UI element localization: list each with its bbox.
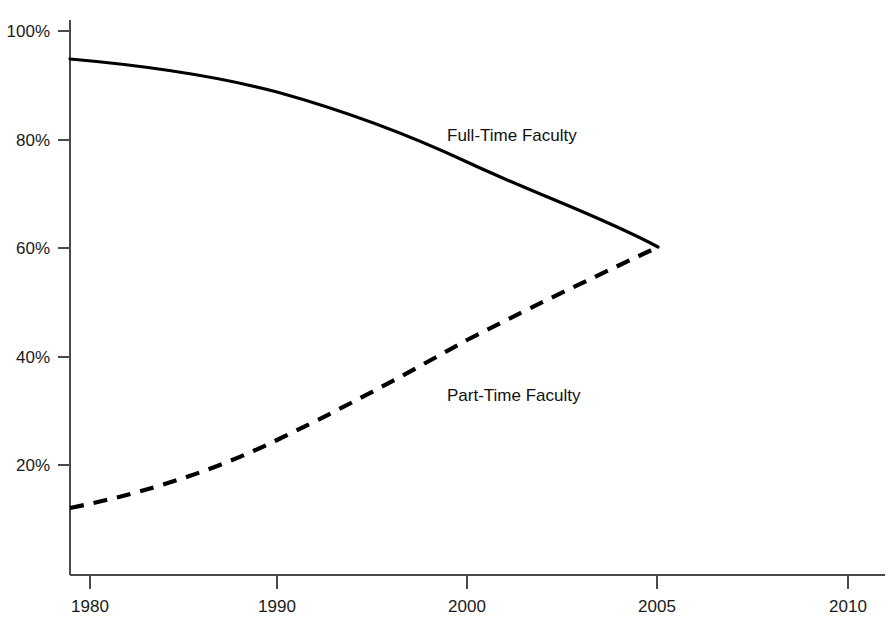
x-tick-label-2005: 2005: [638, 597, 676, 616]
series-line-full-time-faculty: [70, 59, 658, 247]
x-tick-label-2000: 2000: [448, 597, 486, 616]
axes-group: [70, 20, 885, 575]
chart-canvas: 100% 80% 60% 40% 20% 1980 1990 2000 2005…: [0, 0, 893, 636]
x-tick-label-1990: 1990: [258, 597, 296, 616]
series-label-part-time-faculty: Part-Time Faculty: [447, 386, 581, 405]
series-annotations: Full-Time Faculty Part-Time Faculty: [447, 126, 581, 405]
x-tick-label-2010: 2010: [829, 597, 867, 616]
x-axis-ticks: 1980 1990 2000 2005 2010: [71, 575, 867, 616]
series-label-full-time-faculty: Full-Time Faculty: [447, 126, 577, 145]
y-tick-label-60: 60%: [16, 239, 50, 258]
y-axis-ticks: 100% 80% 60% 40% 20%: [7, 22, 70, 475]
series-line-part-time-faculty: [70, 247, 658, 508]
y-tick-label-80: 80%: [16, 131, 50, 150]
y-tick-label-100: 100%: [7, 22, 50, 41]
x-tick-label-1980: 1980: [71, 597, 109, 616]
y-tick-label-40: 40%: [16, 348, 50, 367]
faculty-trend-chart: 100% 80% 60% 40% 20% 1980 1990 2000 2005…: [0, 0, 893, 636]
y-tick-label-20: 20%: [16, 456, 50, 475]
